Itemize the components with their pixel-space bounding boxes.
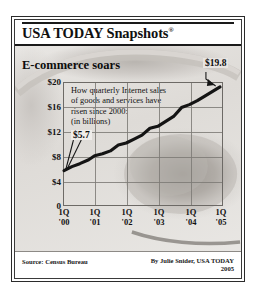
x-tick-02: 1Q '02	[112, 208, 142, 227]
source-attribution: Source: Census Bureau	[22, 258, 88, 265]
brand-header: USA TODAY Snapshots®	[15, 20, 241, 46]
brand-title-text: USA TODAY Snapshots	[22, 25, 168, 41]
y-tick-20: $20	[19, 77, 61, 87]
snapshot-inner: USA TODAY Snapshots® E-commerce soars Ho…	[14, 19, 242, 279]
x-tick-00-year: '00	[49, 218, 79, 228]
snapshot-frame: USA TODAY Snapshots® E-commerce soars Ho…	[11, 16, 245, 282]
chart-footer: Source: Census Bureau By Julie Snider, U…	[15, 251, 241, 278]
plot-area	[63, 82, 223, 206]
y-tick-16: $16	[19, 102, 61, 112]
x-tick-02-year: '02	[112, 218, 142, 228]
x-axis: 1Q '00 1Q '01 1Q '02 1Q '03 1Q '04	[63, 208, 225, 234]
registered-trademark-icon: ®	[168, 26, 173, 34]
brand-top-rule	[22, 22, 234, 24]
y-tick-8: $8	[19, 152, 61, 162]
x-tick-01: 1Q '01	[80, 208, 110, 227]
credit-attribution: By Julie Snider, USA TODAY 2005	[151, 257, 234, 273]
y-tick-4: $4	[19, 177, 61, 187]
credit-author: By Julie Snider, USA TODAY	[151, 257, 234, 265]
chart-body: E-commerce soars How quarterly Internet …	[15, 46, 241, 260]
x-tick-03-year: '03	[144, 218, 174, 228]
x-tick-01-year: '01	[80, 218, 110, 228]
x-tick-05: 1Q '05	[206, 208, 236, 227]
x-tick-03: 1Q '03	[144, 208, 174, 227]
y-tick-12: $12	[19, 127, 61, 137]
credit-year: 2005	[151, 265, 234, 273]
x-tick-05-year: '05	[206, 218, 236, 228]
brand-title: USA TODAY Snapshots®	[22, 25, 174, 42]
x-tick-04-year: '04	[176, 218, 206, 228]
x-tick-00: 1Q '00	[49, 208, 79, 227]
data-label-end: $19.8	[203, 58, 228, 68]
chart-title: E-commerce soars	[22, 58, 120, 73]
data-series-line	[64, 83, 222, 205]
x-tick-04: 1Q '04	[176, 208, 206, 227]
y-axis: $20 $16 $12 $8 $4 0	[15, 82, 61, 206]
data-label-start: $5.7	[71, 130, 92, 140]
